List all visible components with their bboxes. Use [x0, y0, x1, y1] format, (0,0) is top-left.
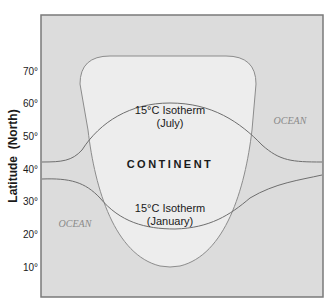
- tick-10: 10°: [23, 262, 38, 273]
- ocean-label-right: OCEAN: [274, 115, 308, 126]
- continent-label: CONTINENT: [127, 158, 214, 170]
- january-isotherm-label-line2: (January): [147, 215, 193, 227]
- y-axis-ticks: 70° 60° 50° 40° 30° 20° 10°: [23, 66, 38, 273]
- ocean-label-left: OCEAN: [59, 218, 93, 229]
- tick-60: 60°: [23, 98, 38, 109]
- tick-20: 20°: [23, 229, 38, 240]
- tick-40: 40°: [23, 164, 38, 175]
- july-isotherm-label-line1: 15°C Isotherm: [135, 104, 205, 116]
- july-isotherm-label-line2: (July): [157, 117, 184, 129]
- tick-50: 50°: [23, 131, 38, 142]
- y-axis-label: Latitude (North): [6, 109, 20, 202]
- tick-70: 70°: [23, 66, 38, 77]
- isotherm-diagram: 70° 60° 50° 40° 30° 20° 10° Latitude (No…: [0, 0, 331, 303]
- tick-30: 30°: [23, 196, 38, 207]
- january-isotherm-label-line1: 15°C Isotherm: [135, 202, 205, 214]
